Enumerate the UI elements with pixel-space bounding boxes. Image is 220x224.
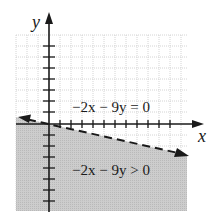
x-axis-label: x <box>197 126 206 146</box>
graph: y x −2x − 9y = 0 −2x − 9y > 0 <box>0 0 220 224</box>
equation-line-label: −2x − 9y = 0 <box>72 99 150 115</box>
right-arrow-icon <box>174 148 189 157</box>
equation-region-label: −2x − 9y > 0 <box>72 162 150 178</box>
y-axis-label: y <box>30 12 40 32</box>
